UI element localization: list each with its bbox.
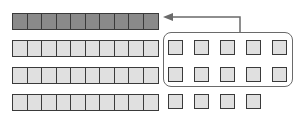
arrow-icon	[0, 0, 301, 115]
